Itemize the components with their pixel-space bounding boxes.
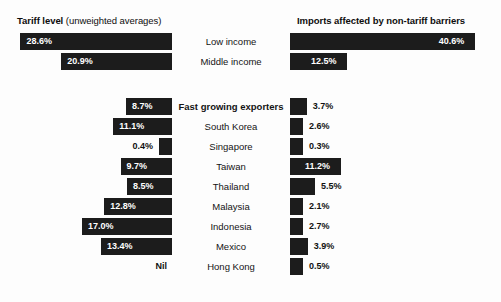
tariff-value-label: 20.9% — [67, 53, 93, 70]
ntb-bar-zone: 2.1% — [290, 198, 501, 215]
ntb-bar-zone: 5.5% — [290, 178, 501, 195]
tariff-value-label: 17.0% — [88, 218, 114, 235]
ntb-value-label: 3.7% — [313, 98, 334, 115]
ntb-value-label: 0.5% — [309, 258, 330, 275]
tariff-bar-zone: 8.5% — [0, 178, 172, 195]
category-label: Thailand — [172, 178, 290, 195]
ntb-bar — [290, 138, 303, 155]
left-series-header: Tariff level (unweighted averages) — [17, 15, 161, 26]
category-label: South Korea — [172, 118, 290, 135]
right-series-header: Imports affected by non-tariff barriers — [297, 15, 465, 26]
ntb-value-label: 2.1% — [309, 198, 330, 215]
ntb-bar — [290, 98, 307, 115]
ntb-value-label: 0.3% — [309, 138, 330, 155]
ntb-bar-zone: 11.2% — [290, 158, 501, 175]
ntb-bar — [290, 118, 303, 135]
chart-row: 28.6%Low income40.6% — [0, 33, 501, 50]
ntb-bar — [290, 218, 303, 235]
tariff-bar-zone: 28.6% — [0, 33, 172, 50]
tariff-bar-zone: 20.9% — [0, 53, 172, 70]
tariff-bar — [159, 138, 172, 155]
chart-row: 8.7%Fast growing exporters3.7% — [0, 98, 501, 115]
chart-row: 17.0%Indonesia2.7% — [0, 218, 501, 235]
tariff-value-label: 12.8% — [110, 198, 136, 215]
ntb-bar-zone: 2.6% — [290, 118, 501, 135]
category-label: Malaysia — [172, 198, 290, 215]
tariff-bar-zone: 0.4% — [0, 138, 172, 155]
ntb-bar-zone: 0.3% — [290, 138, 501, 155]
category-label: Hong Kong — [172, 258, 290, 275]
ntb-bar — [290, 258, 303, 275]
category-label: Low income — [172, 33, 290, 50]
ntb-bar-zone: 3.9% — [290, 238, 501, 255]
tariff-value-label: 11.1% — [119, 118, 144, 135]
tariff-value-label: 0.4% — [132, 138, 153, 155]
chart-row: 12.8%Malaysia2.1% — [0, 198, 501, 215]
tariff-value-label: 8.7% — [132, 98, 153, 115]
tariff-value-label: 8.5% — [133, 178, 154, 195]
category-label: Middle income — [172, 53, 290, 70]
tariff-bar-zone: 9.7% — [0, 158, 172, 175]
chart-row: 8.5%Thailand5.5% — [0, 178, 501, 195]
left-series-header-note: (unweighted averages) — [63, 15, 161, 26]
chart-row: 13.4%Mexico3.9% — [0, 238, 501, 255]
category-label: Mexico — [172, 238, 290, 255]
tariff-value-label: 9.7% — [127, 158, 148, 175]
ntb-bar — [290, 178, 315, 195]
tariff-nil-label: Nil — [155, 258, 167, 275]
ntb-bar — [290, 198, 303, 215]
chart-row: 9.7%Taiwan11.2% — [0, 158, 501, 175]
ntb-value-label: 5.5% — [321, 178, 342, 195]
ntb-value-label: 2.7% — [309, 218, 330, 235]
ntb-bar-zone: 12.5% — [290, 53, 501, 70]
chart-row: 11.1%South Korea2.6% — [0, 118, 501, 135]
ntb-value-label: 12.5% — [311, 53, 337, 70]
ntb-value-label: 40.6% — [439, 33, 465, 50]
tariff-bar-zone: 13.4% — [0, 238, 172, 255]
ntb-value-label: 11.2% — [305, 158, 330, 175]
tariff-value-label: 28.6% — [26, 33, 52, 50]
ntb-bar-zone: 0.5% — [290, 258, 501, 275]
tariff-bar-zone: 17.0% — [0, 218, 172, 235]
category-label: Fast growing exporters — [172, 98, 290, 115]
tariff-value-label: 13.4% — [107, 238, 133, 255]
chart-row: NilHong Kong0.5% — [0, 258, 501, 275]
tariff-bar-zone: 12.8% — [0, 198, 172, 215]
ntb-bar-zone: 3.7% — [290, 98, 501, 115]
tariff-bar-zone: Nil — [0, 258, 172, 275]
category-label: Taiwan — [172, 158, 290, 175]
tariff-bar-zone: 8.7% — [0, 98, 172, 115]
left-series-header-bold: Tariff level — [17, 15, 63, 26]
category-label: Indonesia — [172, 218, 290, 235]
tariff-bar-zone: 11.1% — [0, 118, 172, 135]
ntb-value-label: 3.9% — [314, 238, 335, 255]
ntb-value-label: 2.6% — [309, 118, 330, 135]
ntb-bar — [290, 238, 308, 255]
chart-row: 20.9%Middle income12.5% — [0, 53, 501, 70]
ntb-bar-zone: 2.7% — [290, 218, 501, 235]
chart-canvas: Tariff level (unweighted averages) Impor… — [0, 0, 501, 302]
chart-row: 0.4%Singapore0.3% — [0, 138, 501, 155]
category-label: Singapore — [172, 138, 290, 155]
ntb-bar-zone: 40.6% — [290, 33, 501, 50]
